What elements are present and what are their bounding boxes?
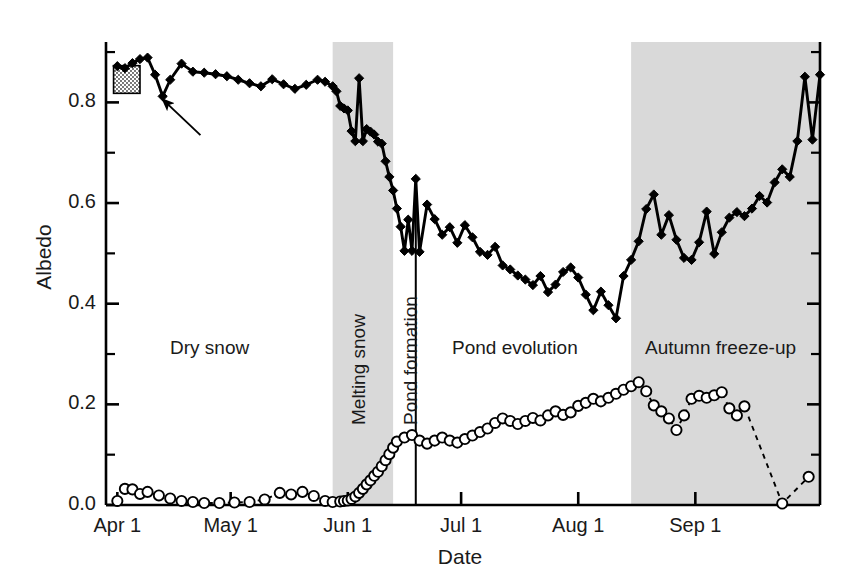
pond-fraction-point	[309, 491, 319, 501]
albedo-pond-fraction-figure: Albedo Date 0.00.20.40.60.8 Apr 1May 1Ju…	[0, 0, 862, 588]
albedo-point	[290, 84, 299, 93]
callout-arrow-annotation	[163, 99, 201, 135]
x-tick-label: Jun 1	[293, 514, 403, 537]
region-label-pond-evolution: Pond evolution	[452, 337, 578, 359]
pond-fraction-point	[286, 489, 296, 499]
albedo-point	[302, 80, 311, 89]
y-tick-label: 0.8	[34, 89, 96, 112]
albedo-point	[589, 306, 598, 315]
x-tick-label: Sep 1	[640, 514, 750, 537]
pond-fraction-point	[275, 488, 285, 498]
albedo-point	[392, 204, 401, 213]
albedo-point	[158, 92, 167, 101]
albedo-point	[143, 53, 152, 62]
albedo-point	[404, 215, 413, 224]
pond-fraction-point	[717, 387, 727, 397]
pond-fraction-point	[664, 413, 674, 423]
pond-fraction-point	[634, 377, 644, 387]
pond-fraction-point	[297, 487, 307, 497]
y-tick-label: 0.2	[34, 391, 96, 414]
albedo-point	[234, 75, 243, 84]
x-tick-label: Aug 1	[523, 514, 633, 537]
y-tick-label: 0.0	[34, 492, 96, 515]
pond-fraction-point	[641, 386, 651, 396]
pond-fraction-point	[679, 410, 689, 420]
pond-fraction-point	[188, 497, 198, 507]
region-label-autumn-freeze-up: Autumn freeze-up	[645, 337, 796, 359]
albedo-point	[619, 271, 628, 280]
pond-fraction-point	[112, 496, 122, 506]
pond-fraction-point	[165, 493, 175, 503]
region-shade-autumn-freeze-up	[631, 42, 820, 505]
pond-fraction-point	[229, 497, 239, 507]
albedo-point	[313, 75, 322, 84]
albedo-point	[396, 222, 405, 231]
albedo-point	[245, 79, 254, 88]
albedo-point	[151, 70, 160, 79]
x-tick-label: Apr 1	[62, 514, 172, 537]
albedo-point	[200, 68, 209, 77]
pond-fraction-point	[739, 401, 749, 411]
y-tick-label: 0.6	[34, 190, 96, 213]
region-label-melting-snow: Melting snow	[348, 314, 370, 425]
pond-fraction-point	[176, 496, 186, 506]
albedo-point	[279, 80, 288, 89]
region-label-dry-snow: Dry snow	[170, 337, 249, 359]
pond-fraction-point	[732, 410, 742, 420]
x-tick-label: Jul 1	[406, 514, 516, 537]
albedo-point	[222, 72, 231, 81]
x-axis-title: Date	[400, 545, 520, 569]
albedo-point	[211, 70, 220, 79]
pond-fraction-point	[154, 490, 164, 500]
pond-fraction-point	[777, 498, 787, 508]
albedo-point	[453, 238, 462, 247]
pond-fraction-point	[142, 487, 152, 497]
y-tick-label: 0.4	[34, 291, 96, 314]
pond-fraction-point	[260, 494, 270, 504]
pond-fraction-point	[244, 497, 254, 507]
chart-canvas	[0, 0, 862, 588]
region-label-pond-formation: Pond formation	[400, 296, 422, 425]
pond-fraction-point	[214, 498, 224, 508]
x-tick-label: May 1	[176, 514, 286, 537]
pond-fraction-point	[199, 498, 209, 508]
pond-fraction-point	[671, 425, 681, 435]
albedo-point	[411, 174, 420, 183]
pond-fraction-point	[804, 472, 814, 482]
albedo-point	[581, 290, 590, 299]
